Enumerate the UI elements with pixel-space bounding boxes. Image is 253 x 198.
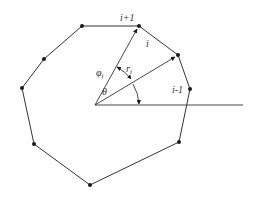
vertex	[20, 86, 24, 90]
label-theta: θ	[102, 86, 107, 97]
angle-arc-r	[133, 84, 139, 104]
vertex	[177, 140, 181, 144]
vertex-i-plus-1	[137, 24, 141, 28]
polygon-boundary	[22, 26, 190, 185]
vertex-i-minus-1	[188, 87, 192, 91]
vertex-i	[176, 53, 180, 57]
diagram-canvas: i+1 i i-1 θ φi ri	[0, 0, 253, 198]
label-i: i	[146, 38, 149, 49]
vertex	[88, 183, 92, 187]
vertex	[80, 24, 84, 28]
label-i-plus-1: i+1	[120, 12, 135, 23]
ray-to-vertex-i	[95, 57, 175, 105]
vertex	[32, 142, 36, 146]
polygon-polar-diagram: i+1 i i-1 θ φi ri	[0, 0, 253, 198]
label-phi: φi	[96, 67, 104, 80]
vertex	[42, 57, 46, 61]
label-i-minus-1: i-1	[172, 84, 183, 95]
polygon-vertices	[20, 24, 192, 187]
